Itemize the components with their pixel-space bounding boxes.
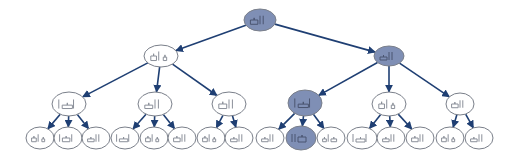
tree-node[interactable] bbox=[111, 127, 139, 149]
tree-node-highlighted[interactable] bbox=[374, 46, 404, 66]
tree-node[interactable] bbox=[82, 127, 110, 149]
tree-node[interactable] bbox=[317, 127, 345, 149]
tree-node[interactable] bbox=[406, 127, 434, 149]
tree-node[interactable] bbox=[446, 93, 474, 115]
edge-arrow bbox=[319, 62, 378, 95]
tree-node[interactable] bbox=[465, 127, 493, 149]
tree-node[interactable] bbox=[256, 127, 284, 149]
tree-node[interactable] bbox=[225, 127, 253, 149]
edges-layer bbox=[48, 24, 474, 129]
edge-arrow bbox=[172, 64, 216, 95]
tree-node[interactable] bbox=[26, 127, 54, 149]
edge-arrow bbox=[302, 116, 303, 126]
tree-node[interactable] bbox=[140, 127, 168, 149]
tree-node[interactable] bbox=[347, 127, 377, 149]
edge-arrow bbox=[466, 114, 474, 128]
tree-node[interactable] bbox=[212, 92, 246, 116]
tree-node[interactable] bbox=[372, 92, 406, 116]
tree-node[interactable] bbox=[144, 45, 178, 67]
edge-arrow bbox=[275, 24, 375, 52]
edge-arrow bbox=[156, 67, 159, 92]
edge-arrow bbox=[77, 114, 88, 128]
tree-node[interactable] bbox=[168, 127, 196, 149]
edge-arrow bbox=[400, 63, 450, 97]
edge-arrow bbox=[48, 114, 60, 129]
edge-arrow bbox=[398, 114, 412, 129]
tree-node[interactable] bbox=[436, 127, 464, 149]
edge-arrow bbox=[232, 116, 235, 128]
tree-node-highlighted[interactable] bbox=[286, 126, 316, 150]
tree-node[interactable] bbox=[377, 127, 405, 149]
tree-node-highlighted[interactable] bbox=[244, 9, 276, 31]
tree-node[interactable] bbox=[52, 92, 86, 116]
edge-arrow bbox=[176, 25, 246, 50]
edge-arrow bbox=[390, 116, 391, 127]
edge-arrow bbox=[313, 114, 324, 128]
edge-arrow bbox=[83, 63, 148, 97]
edge-arrow bbox=[370, 114, 381, 128]
tree-node[interactable] bbox=[54, 127, 82, 149]
edge-arrow bbox=[163, 114, 174, 128]
tree-node[interactable] bbox=[197, 127, 225, 149]
edge-arrow bbox=[216, 115, 223, 128]
tree-node-highlighted[interactable] bbox=[288, 90, 322, 116]
edge-arrow bbox=[133, 114, 146, 129]
edge-arrow bbox=[279, 113, 295, 129]
tree-node[interactable] bbox=[138, 92, 172, 116]
tree-diagram bbox=[0, 0, 516, 158]
tree-canvas bbox=[0, 0, 516, 158]
edge-arrow bbox=[453, 115, 457, 128]
